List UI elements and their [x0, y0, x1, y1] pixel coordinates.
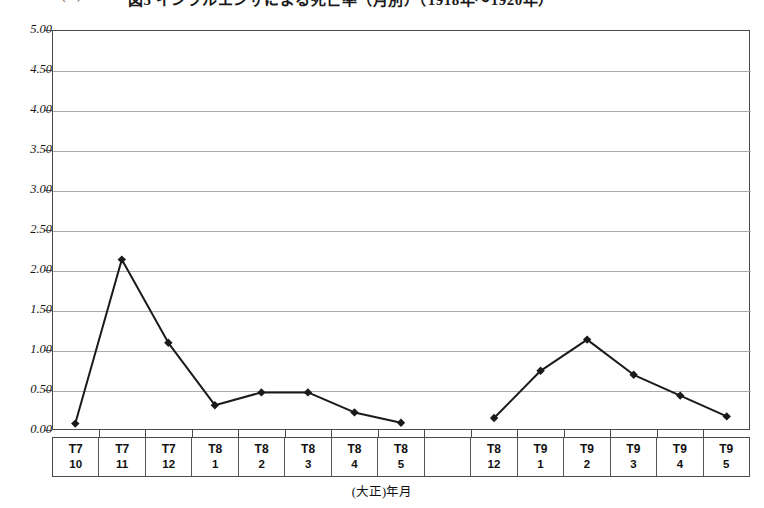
x-axis-label-cell: T95: [704, 438, 749, 476]
x-axis-year-label: T9: [626, 441, 640, 457]
x-axis-month-label: 4: [351, 457, 357, 473]
x-axis-year-label: T7: [162, 441, 176, 457]
x-axis-month-label: 12: [162, 457, 175, 473]
x-axis-year-label: T8: [208, 441, 222, 457]
x-axis-tick-mark: [564, 430, 565, 437]
x-axis-tick-mark: [517, 430, 518, 437]
x-axis-month-label: 10: [69, 457, 82, 473]
x-axis-label-cell: T92: [564, 438, 610, 476]
y-axis-tick-mark: [44, 110, 52, 111]
x-axis-tick-mark: [285, 430, 286, 437]
x-axis-year-label: T8: [301, 441, 315, 457]
x-axis-month-label: 5: [723, 457, 729, 473]
x-axis-label-cell: T812: [471, 438, 517, 476]
x-axis-year-label: T7: [69, 441, 83, 457]
x-axis-month-label: 2: [258, 457, 264, 473]
x-axis-tick-mark: [99, 430, 100, 437]
data-point-marker: [118, 255, 126, 263]
x-axis-title: (大正)年月: [0, 481, 764, 500]
x-axis-label-cell: T82: [239, 438, 285, 476]
x-axis-year-label: T7: [115, 441, 129, 457]
x-axis-year-label: T9: [673, 441, 687, 457]
x-axis-label-cell: T83: [285, 438, 331, 476]
x-axis-year-label: T9: [580, 441, 594, 457]
x-axis-year-label: T9: [719, 441, 733, 457]
data-point-marker: [304, 388, 312, 396]
x-axis-year-label: T8: [348, 441, 362, 457]
x-axis-month-label: 1: [212, 457, 218, 473]
x-axis-label-cell: T94: [657, 438, 703, 476]
x-axis-tick-mark: [331, 430, 332, 437]
x-axis-tick-mark: [657, 430, 658, 437]
x-axis-month-label: 11: [116, 457, 128, 473]
x-axis-label-cell: T711: [99, 438, 145, 476]
x-axis-month-label: 12: [488, 457, 501, 473]
y-axis-tick-mark: [44, 70, 52, 71]
chart-title-row: (‰) 図5 インフルエンザによる死亡率（月別）（1918年～1920年）: [0, 0, 764, 8]
y-axis-tick-mark: [44, 390, 52, 391]
x-axis-label-table: T710T711T712T81T82T83T84T85T812T91T92T93…: [52, 437, 750, 477]
x-axis-label-cell: T712: [146, 438, 192, 476]
x-axis-year-label: T8: [394, 441, 408, 457]
x-axis-label-cell: T85: [378, 438, 424, 476]
x-axis-label-cell: T710: [53, 438, 99, 476]
x-axis-month-label: 2: [584, 457, 590, 473]
data-point-marker: [723, 412, 731, 420]
data-point-marker: [350, 408, 358, 416]
y-axis-tick-mark: [44, 310, 52, 311]
x-axis-label-cell: T84: [332, 438, 378, 476]
x-axis-month-label: 3: [630, 457, 636, 473]
x-axis-tick-mark: [378, 430, 379, 437]
data-point-marker: [257, 388, 265, 396]
chart-figure: (‰) 図5 インフルエンザによる死亡率（月別）（1918年～1920年） 0.…: [0, 0, 764, 508]
x-axis-month-label: 5: [398, 457, 404, 473]
y-axis-tick-mark: [44, 230, 52, 231]
y-axis-tick-mark: [44, 150, 52, 151]
x-axis-label-cell: T91: [518, 438, 564, 476]
x-axis-tick-mark: [703, 430, 704, 437]
x-axis-month-label: 1: [537, 457, 543, 473]
page-title: 図5 インフルエンザによる死亡率（月別）（1918年～1920年）: [128, 0, 554, 8]
x-axis-year-label: T8: [487, 441, 501, 457]
data-point-marker: [397, 419, 405, 427]
x-axis-tick-mark: [471, 430, 472, 437]
y-axis-tick-mark: [44, 430, 52, 431]
x-axis-tick-mark: [192, 430, 193, 437]
y-axis-tick-mark: [44, 190, 52, 191]
x-axis-year-label: T9: [533, 441, 547, 457]
data-point-marker: [71, 419, 79, 427]
x-axis-tick-mark: [610, 430, 611, 437]
y-axis-tick-mark: [44, 350, 52, 351]
x-axis-month-label: 3: [305, 457, 311, 473]
x-axis-label-cell: T81: [192, 438, 238, 476]
x-axis-label-cell: [425, 438, 471, 476]
x-axis-tick-mark: [238, 430, 239, 437]
y-axis-tick-mark: [44, 270, 52, 271]
y-axis-unit-label: (‰): [62, 0, 80, 2]
data-point-marker: [676, 391, 684, 399]
series-line: [494, 340, 727, 418]
x-axis-year-label: T8: [255, 441, 269, 457]
x-axis-tick-mark: [424, 430, 425, 437]
x-axis-tick-mark: [145, 430, 146, 437]
y-axis-tick-mark: [44, 30, 52, 31]
x-axis-label-cell: T93: [611, 438, 657, 476]
x-axis-month-label: 4: [677, 457, 683, 473]
data-series-layer: [52, 30, 750, 430]
series-line: [75, 260, 401, 424]
